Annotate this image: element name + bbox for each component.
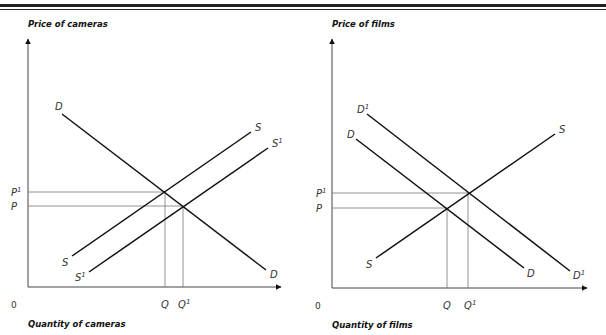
diagram-canvas: Price of cameras D D S S S1 S1 P1 P 0 Q … bbox=[0, 0, 606, 335]
y-axis-title: Price of films bbox=[332, 19, 395, 29]
demand-shifted-curve bbox=[367, 114, 570, 271]
x-axis-title: Quantity of films bbox=[332, 320, 413, 330]
supply-label-top: S bbox=[255, 122, 262, 133]
demand-label-top: D bbox=[347, 129, 355, 140]
origin-label: 0 bbox=[315, 301, 321, 311]
price-p1-label: P1 bbox=[316, 187, 327, 199]
quantity-q1-label: Q1 bbox=[464, 299, 476, 311]
price-p1-label: P1 bbox=[11, 186, 22, 198]
supply-shifted-label-top: S1 bbox=[272, 137, 283, 149]
demand-shifted-label-top: D1 bbox=[357, 103, 369, 115]
quantity-q1-label: Q1 bbox=[178, 298, 190, 310]
quantity-q-label: Q bbox=[443, 300, 451, 311]
y-axis-title: Price of cameras bbox=[28, 19, 108, 29]
demand-label-top: D bbox=[55, 101, 63, 112]
quantity-q-label: Q bbox=[161, 299, 169, 310]
price-p-label: P bbox=[316, 203, 323, 214]
right-panel-films: Price of films D1 D1 D D S S P1 P 0 Q Q1… bbox=[315, 19, 587, 330]
supply-label-bottom: S bbox=[366, 259, 373, 270]
demand-label-bottom: D bbox=[270, 269, 278, 280]
demand-curve bbox=[356, 139, 524, 268]
supply-label-bottom: S bbox=[62, 257, 69, 268]
x-axis-title: Quantity of cameras bbox=[28, 319, 125, 329]
supply-shifted-curve bbox=[89, 148, 268, 272]
demand-label-bottom: D bbox=[527, 268, 535, 279]
price-p-label: P bbox=[11, 201, 18, 212]
demand-shifted-label-bottom: D1 bbox=[573, 269, 585, 281]
supply-label-top: S bbox=[559, 124, 566, 135]
left-panel-cameras: Price of cameras D D S S S1 S1 P1 P 0 Q … bbox=[11, 19, 283, 329]
origin-label: 0 bbox=[11, 300, 17, 310]
supply-shifted-label-bottom: S1 bbox=[75, 271, 86, 283]
